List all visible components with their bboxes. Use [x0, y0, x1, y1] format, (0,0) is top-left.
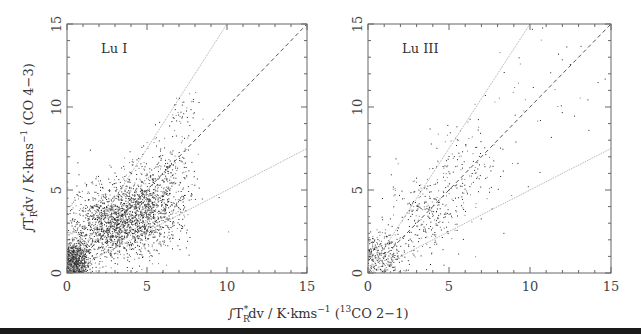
panel-lu-iii: 051015051015Lu III: [350, 16, 633, 294]
y-tick-label: 10: [49, 99, 64, 116]
y-tick-label: 10: [350, 99, 365, 116]
panel-label: Lu III: [402, 41, 439, 56]
x-tick-label: 5: [445, 279, 453, 294]
figure: 051015051015Lu I 051015051015Lu III ∫TR*…: [0, 0, 641, 334]
panel-label: Lu I: [101, 41, 127, 56]
bottom-border-bar: [0, 328, 641, 334]
x-tick-label: 15: [299, 279, 316, 294]
y-tick-label: 15: [350, 16, 365, 33]
panel-lu-i: 051015051015Lu I: [49, 16, 315, 294]
y-tick-label: 0: [350, 269, 365, 277]
reference-line: [67, 24, 227, 273]
reference-line: [67, 24, 307, 273]
x-tick-label: 10: [522, 279, 539, 294]
x-tick-label: 15: [603, 279, 620, 294]
y-axis-label: ∫TR*dv / K·kms−1 (CO 4−3): [19, 63, 39, 233]
y-tick-label: 5: [49, 186, 64, 194]
scatter-points: [368, 28, 633, 274]
x-axis-label: ∫TR*dv / K·kms−1 (13CO 2−1): [228, 304, 409, 324]
x-tick-label: 5: [143, 279, 151, 294]
x-tick-label: 0: [364, 279, 372, 294]
reference-line: [368, 24, 530, 273]
y-tick-label: 5: [350, 186, 365, 194]
x-tick-label: 0: [63, 279, 71, 294]
x-tick-label: 10: [219, 279, 236, 294]
reference-line: [67, 149, 307, 274]
scatter-points: [67, 92, 229, 274]
reference-line: [368, 24, 611, 273]
y-tick-label: 15: [49, 16, 64, 33]
y-tick-label: 0: [49, 269, 64, 277]
